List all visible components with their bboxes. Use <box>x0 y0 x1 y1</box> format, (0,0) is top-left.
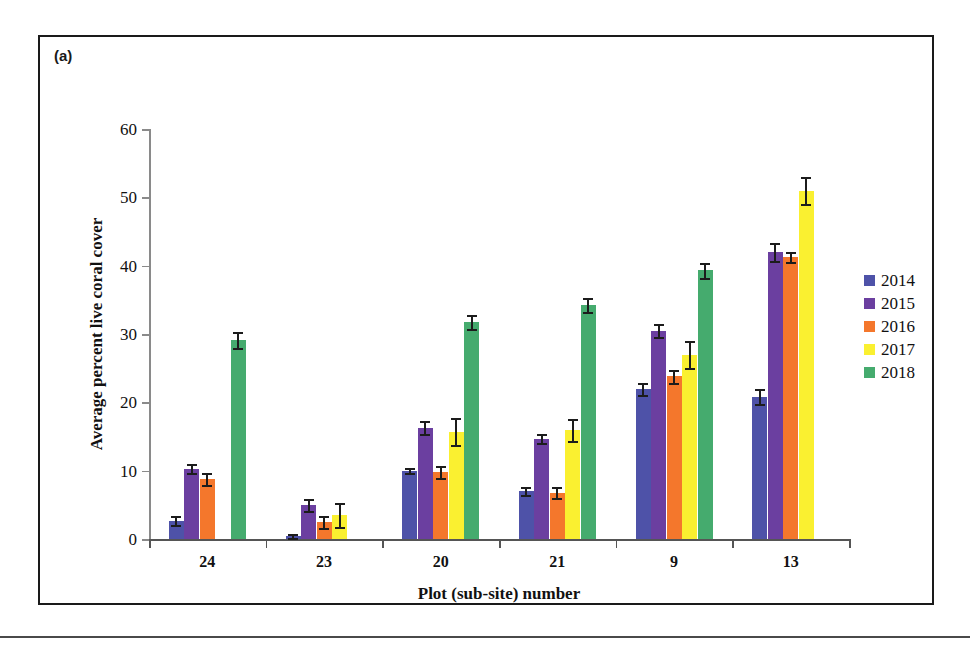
error-bar-cap-lower <box>451 445 461 447</box>
error-bar-cap-upper <box>304 499 314 501</box>
legend-item-2015: 2015 <box>864 292 915 315</box>
error-bar-line <box>805 177 807 204</box>
error-bar-cap-lower <box>202 485 212 487</box>
error-bar-line <box>774 243 776 261</box>
legend-item-2014: 2014 <box>864 269 915 292</box>
error-bar-cap-lower <box>304 511 314 513</box>
error-bar-cap-upper <box>669 370 679 372</box>
legend-item-2017: 2017 <box>864 338 915 361</box>
y-tick-label: 10 <box>77 462 137 482</box>
error-bar-cap-upper <box>786 252 796 254</box>
bar-2018-21 <box>581 305 596 539</box>
bar-2015-9 <box>651 331 666 539</box>
legend-label: 2014 <box>881 272 915 289</box>
error-bar-cap-lower <box>685 368 695 370</box>
error-bar-cap-lower <box>521 495 531 497</box>
error-bar-cap-upper <box>770 243 780 245</box>
error-bar-line <box>237 332 239 348</box>
x-tick-label: 20 <box>401 553 481 571</box>
error-bar-cap-lower <box>436 478 446 480</box>
bar-2016-20 <box>433 472 448 539</box>
error-bar-line <box>587 298 589 312</box>
y-tick <box>142 266 150 268</box>
error-bar-cap-upper <box>187 464 197 466</box>
bar-2016-9 <box>667 376 682 539</box>
bar-2014-20 <box>402 471 417 539</box>
error-bar-cap-upper <box>700 263 710 265</box>
legend-swatch-icon <box>864 275 875 286</box>
error-bar-cap-upper <box>537 434 547 436</box>
error-bar-cap-upper <box>521 487 531 489</box>
bar-2014-9 <box>636 389 651 539</box>
error-bar-line <box>704 263 706 278</box>
y-tick-label: 60 <box>77 120 137 140</box>
legend-item-2018: 2018 <box>864 361 915 384</box>
error-bar-cap-upper <box>755 389 765 391</box>
legend: 20142015201620172018 <box>864 269 915 384</box>
x-axis-title: Plot (sub-site) number <box>149 584 849 604</box>
bar-2014-21 <box>519 491 534 539</box>
legend-label: 2017 <box>881 341 915 358</box>
error-bar-cap-lower <box>405 473 415 475</box>
bar-2014-13 <box>752 397 767 539</box>
x-tick-label: 23 <box>284 553 364 571</box>
error-bar-line <box>572 419 574 441</box>
error-bar-line <box>339 503 341 528</box>
error-bar-line <box>471 315 473 329</box>
error-bar-cap-upper <box>638 383 648 385</box>
legend-swatch-icon <box>864 344 875 355</box>
error-bar-cap-lower <box>786 262 796 264</box>
error-bar-cap-upper <box>405 468 415 470</box>
bar-2015-24 <box>184 469 199 539</box>
error-bar-cap-lower <box>187 473 197 475</box>
y-tick-label: 30 <box>77 325 137 345</box>
error-bar-cap-upper <box>568 419 578 421</box>
bar-2018-9 <box>698 270 713 539</box>
error-bar-cap-upper <box>451 418 461 420</box>
y-tick <box>142 471 150 473</box>
bar-2017-21 <box>565 430 580 539</box>
error-bar-cap-lower <box>288 538 298 540</box>
legend-swatch-icon <box>864 321 875 332</box>
x-tick <box>149 539 151 548</box>
bar-2015-21 <box>534 439 549 539</box>
error-bar-line <box>759 389 761 404</box>
y-tick-label: 20 <box>77 393 137 413</box>
bar-2018-20 <box>464 322 479 539</box>
legend-label: 2016 <box>881 318 915 335</box>
x-tick-label: 9 <box>634 553 714 571</box>
error-bar-cap-upper <box>583 298 593 300</box>
legend-label: 2018 <box>881 364 915 381</box>
error-bar-cap-upper <box>467 315 477 317</box>
x-tick <box>382 539 384 548</box>
x-tick <box>499 539 501 548</box>
legend-swatch-icon <box>864 367 875 378</box>
legend-label: 2015 <box>881 295 915 312</box>
bar-2017-9 <box>682 355 697 540</box>
x-tick <box>849 539 851 548</box>
error-bar-cap-lower <box>700 278 710 280</box>
figure-frame: (a) 0102030405060 24232021913 Average pe… <box>38 35 934 605</box>
plot-region: 0102030405060 24232021913 Average percen… <box>149 129 849 539</box>
bar-2015-13 <box>768 252 783 539</box>
error-bar-cap-lower <box>420 434 430 436</box>
error-bar-cap-lower <box>537 443 547 445</box>
error-bar-cap-upper <box>436 466 446 468</box>
error-bar-cap-upper <box>685 341 695 343</box>
legend-item-2016: 2016 <box>864 315 915 338</box>
error-bar-cap-upper <box>801 177 811 179</box>
error-bar-cap-lower <box>755 404 765 406</box>
error-bar-cap-upper <box>552 487 562 489</box>
x-tick-label: 24 <box>167 553 247 571</box>
error-bar-cap-lower <box>654 337 664 339</box>
error-bar-cap-upper <box>171 516 181 518</box>
error-bar-cap-lower <box>770 261 780 263</box>
x-tick-label: 13 <box>751 553 831 571</box>
error-bar-cap-lower <box>669 383 679 385</box>
error-bar-cap-lower <box>552 498 562 500</box>
error-bar-cap-upper <box>335 503 345 505</box>
bar-2015-20 <box>418 428 433 539</box>
error-bar-cap-upper <box>319 516 329 518</box>
error-bar-cap-upper <box>654 324 664 326</box>
error-bar-cap-upper <box>420 421 430 423</box>
